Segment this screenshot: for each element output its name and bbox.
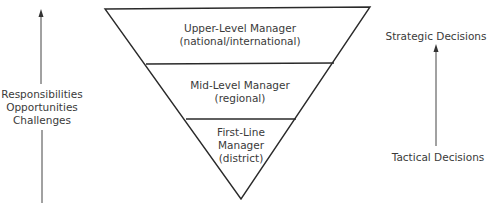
level-first-line-scope: (district)	[217, 152, 265, 165]
level-first-line-title-1: First-Line	[217, 126, 265, 139]
level-upper-scope: (national/international)	[179, 35, 300, 48]
left-axis-labels: Responsibilities Opportunities Challenge…	[1, 88, 82, 127]
level-mid-label: Mid-Level Manager (regional)	[190, 79, 290, 105]
level-first-line-label: First-Line Manager (district)	[217, 126, 265, 165]
left-axis-label-opportunities: Opportunities	[1, 101, 82, 114]
right-axis-bottom-label: Tactical Decisions	[392, 151, 485, 164]
right-arrow-head-icon	[434, 44, 439, 52]
left-axis-label-challenges: Challenges	[1, 114, 82, 127]
level-upper-label: Upper-Level Manager (national/internatio…	[179, 22, 300, 48]
level-first-line-title-2: Manager	[217, 139, 265, 152]
right-axis-top-label: Strategic Decisions	[386, 30, 487, 43]
level-mid-scope: (regional)	[190, 92, 290, 105]
level-upper-title: Upper-Level Manager	[179, 22, 300, 35]
left-axis-label-responsibilities: Responsibilities	[1, 88, 82, 101]
left-arrow-head-icon	[39, 9, 44, 17]
level-divider-1	[146, 63, 334, 64]
level-mid-title: Mid-Level Manager	[190, 79, 290, 92]
